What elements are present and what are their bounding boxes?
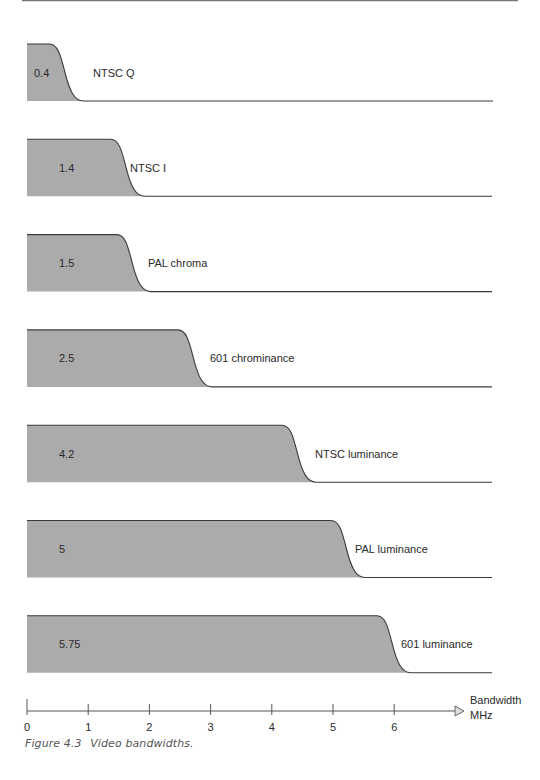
value-label: 2.5 [59, 352, 74, 364]
x-axis: 0123456BandwidthMHz [24, 694, 521, 733]
tick-label: 5 [330, 721, 336, 733]
axis-title-line2: MHz [470, 709, 493, 721]
series-label: PAL chroma [148, 257, 208, 269]
bandwidth-area [27, 616, 411, 673]
tick-label: 2 [146, 721, 152, 733]
caption-text: Video bandwidths. [90, 737, 193, 750]
bandwidth-panels: 0.4NTSC Q1.4NTSC I1.5PAL chroma2.5601 ch… [27, 44, 493, 673]
panel-601-chrominance: 2.5601 chrominance [27, 330, 492, 387]
series-label: 601 chrominance [210, 352, 294, 364]
axis-arrow-icon [455, 706, 464, 716]
series-label: NTSC I [130, 162, 166, 174]
value-label: 4.2 [59, 448, 74, 460]
series-label: PAL luminance [355, 543, 428, 555]
axis-title-line1: Bandwidth [470, 694, 521, 706]
series-label: NTSC Q [93, 67, 135, 79]
tick-label: 3 [208, 721, 214, 733]
tick-label: 4 [269, 721, 275, 733]
tick-label: 6 [391, 721, 397, 733]
value-label: 5.75 [59, 638, 80, 650]
tick-label: 1 [85, 721, 91, 733]
bandwidth-area [27, 521, 365, 578]
panel-pal-luminance: 5PAL luminance [27, 521, 492, 578]
panel-ntsc-luminance: 4.2NTSC luminance [27, 425, 492, 482]
figure-caption: Figure 4.3 Video bandwidths. [25, 737, 194, 750]
caption-number: Figure 4.3 [25, 737, 82, 750]
tick-label: 0 [24, 721, 30, 733]
value-label: 1.4 [59, 162, 74, 174]
panel-ntsc-i: 1.4NTSC I [27, 139, 492, 196]
value-label: 0.4 [34, 67, 49, 79]
panel-ntsc-q: 0.4NTSC Q [27, 44, 493, 101]
series-label: 601 luminance [401, 638, 473, 650]
panel-601-luminance: 5.75601 luminance [27, 616, 492, 673]
value-label: 5 [59, 543, 65, 555]
value-label: 1.5 [59, 257, 74, 269]
bandwidth-area [27, 139, 145, 196]
panel-pal-chroma: 1.5PAL chroma [27, 235, 492, 292]
series-label: NTSC luminance [315, 448, 398, 460]
bandwidth-area [27, 330, 212, 387]
bandwidth-chart: 0.4NTSC Q1.4NTSC I1.5PAL chroma2.5601 ch… [0, 0, 540, 780]
